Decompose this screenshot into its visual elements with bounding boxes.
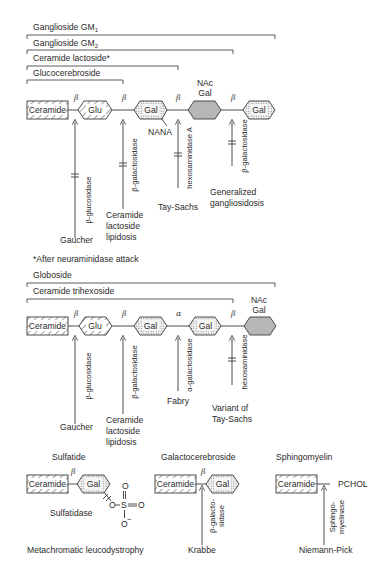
svg-text:Gal: Gal — [144, 321, 157, 331]
disease-label: Ceramide — [106, 415, 143, 425]
enzyme-arrow-alpha-galactosidase: α-galactosidase Fabry — [167, 338, 194, 406]
disease-label: Generalized — [210, 187, 257, 197]
svg-text:Gal: Gal — [87, 479, 100, 489]
linkage-beta: β — [73, 93, 79, 102]
sphingolipid-pathway-diagram: Ganglioside GM1 Ganglioside GM2 Ceramide… — [0, 0, 388, 575]
svg-text:α-galactosidase: α-galactosidase — [185, 338, 194, 391]
svg-text:O: O — [122, 481, 129, 491]
svg-text:Glu: Glu — [88, 321, 102, 331]
bracket-label: Ganglioside GM1 — [33, 22, 99, 33]
disease-label: Ceramide — [106, 210, 143, 220]
bracket-globoside: Globoside — [27, 270, 275, 287]
svg-text:β: β — [230, 309, 236, 318]
disease-label: lactoside — [106, 221, 140, 231]
svg-text:Gal: Gal — [252, 305, 265, 315]
bracket-label: Ceramide lactoside* — [33, 53, 111, 63]
panel-title: Sulfatide — [52, 452, 86, 462]
svg-text:myelinase: myelinase — [337, 500, 346, 534]
bracket-label: Ganglioside GM2 — [33, 38, 99, 49]
svg-text:Globoside: Globoside — [33, 270, 72, 280]
svg-text:sidase: sidase — [217, 505, 226, 527]
n-acetylgalactosamine-node: NAc Gal — [188, 78, 221, 119]
sphingomyelin-panel: Sphingomyelin Ceramide PCHOL Sphingo- my… — [276, 452, 368, 555]
svg-text:−: − — [127, 515, 132, 524]
svg-text:Gal: Gal — [252, 105, 265, 115]
svg-text:O: O — [109, 500, 116, 510]
svg-text:β: β — [73, 309, 79, 318]
disease-label: Variant of — [212, 403, 249, 413]
svg-text:Ceramide trihexoside: Ceramide trihexoside — [33, 286, 114, 296]
ceramide-node: Ceramide — [27, 317, 68, 335]
svg-text:Ceramide: Ceramide — [29, 479, 66, 489]
enzyme-arrow-beta-galactosidase: β-galactosidase Ceramide lactoside lipid… — [106, 122, 143, 242]
terminal-galactose-node: Gal — [243, 101, 275, 119]
galactose-node: Gal — [134, 317, 167, 335]
disease-label: gangliosidosis — [210, 198, 264, 208]
disease-label: Gaucher — [60, 235, 93, 245]
svg-text:β-glucosidase: β-glucosidase — [84, 176, 93, 223]
svg-text:hexosaminidase A: hexosaminidase A — [185, 126, 194, 189]
disease-label: Gaucher — [60, 422, 93, 432]
disease-label: Tay-Sachs — [212, 414, 252, 424]
svg-text:Sphingo-: Sphingo- — [328, 501, 337, 532]
svg-text:β-glucosidase: β-glucosidase — [84, 352, 93, 399]
middle-pathway: Globoside Ceramide trihexoside Ceramide … — [27, 270, 276, 447]
svg-text:Glu: Glu — [88, 105, 102, 115]
svg-text:Gal: Gal — [198, 88, 211, 98]
svg-text:hexosaminidase: hexosaminidase — [240, 335, 249, 390]
enzyme-arrow-beta-glucosidase: β-glucosidase Gaucher — [60, 338, 93, 432]
disease-label: Krabbe — [188, 545, 216, 555]
svg-text:Gal: Gal — [144, 105, 157, 115]
footnote: *After neuraminidase attack — [33, 254, 139, 264]
enzyme-label: Sulfatidase — [50, 508, 93, 518]
svg-text:Ceramide: Ceramide — [29, 105, 66, 115]
svg-text:β: β — [121, 309, 127, 318]
svg-text:α: α — [176, 309, 182, 318]
enzyme-arrow-beta-galactosidase-gm1: β-galactosidase Generalized gangliosidos… — [210, 119, 264, 208]
panel-title: Galactocerebroside — [161, 452, 236, 462]
bracket-ganglioside-gm2: Ganglioside GM2 — [27, 38, 233, 54]
svg-text:Gal: Gal — [199, 321, 212, 331]
galactose-node-2: Gal — [189, 317, 221, 335]
disease-label: Fabry — [167, 396, 190, 406]
svg-text:β-galactosidase: β-galactosidase — [130, 138, 139, 191]
linkage-beta: β — [175, 93, 181, 102]
svg-text:NAc: NAc — [251, 295, 268, 305]
sulfatide-panel: Sulfatide Ceramide Gal β O S O O O − Sul… — [27, 452, 145, 555]
disease-label: lipidosis — [106, 437, 137, 447]
galactocerebroside-panel: Galactocerebroside Ceramide Gal β β-gala… — [155, 452, 239, 555]
panel-title: Sphingomyelin — [276, 452, 333, 462]
glucose-node: Glu — [79, 317, 112, 335]
svg-text:Ceramide: Ceramide — [278, 479, 315, 489]
enzyme-arrow-hexosaminidase: hexosaminidase Variant of Tay-Sachs — [212, 335, 252, 424]
n-acetylgalactosamine-node: NAc Gal — [244, 295, 276, 335]
svg-text:β-galacto-: β-galacto- — [208, 499, 217, 533]
top-pathway: Ganglioside GM1 Ganglioside GM2 Ceramide… — [27, 22, 275, 264]
svg-text:β: β — [200, 467, 206, 476]
bracket-ganglioside-gm1: Ganglioside GM1 — [27, 22, 275, 39]
linkage-beta: β — [121, 93, 127, 102]
svg-text:β-galactosidase: β-galactosidase — [240, 119, 249, 172]
glucose-node: Glu — [78, 101, 112, 119]
linkage-beta: β — [230, 93, 236, 102]
svg-text:β-galactosidase: β-galactosidase — [130, 345, 139, 398]
phosphocholine-label: PCHOL — [338, 479, 368, 489]
disease-label: lipidosis — [106, 232, 137, 242]
disease-label: lactoside — [106, 426, 140, 436]
disease-label: Tay-Sachs — [158, 202, 198, 212]
svg-text:β: β — [70, 467, 76, 476]
svg-text:S: S — [121, 500, 127, 510]
galactose-node: Gal — [134, 101, 167, 119]
nana-branch-label: NANA — [148, 127, 172, 137]
bracket-glucocerebroside: Glucocerebroside — [27, 68, 123, 84]
ceramide-node: Ceramide — [27, 101, 68, 119]
enzyme-arrow-beta-galactosidase: β-galactosidase Ceramide lactoside lipid… — [106, 338, 143, 447]
disease-label: Niemann-Pick — [299, 545, 353, 555]
disease-label: Metachromatic leucodystrophy — [27, 545, 144, 555]
svg-text:Gal: Gal — [216, 479, 229, 489]
svg-text:NAc: NAc — [197, 78, 214, 88]
bracket-label: Glucocerebroside — [33, 68, 101, 78]
enzyme-arrow-beta-glucosidase: β-glucosidase Gaucher — [60, 122, 93, 245]
bracket-ceramide-trihexoside: Ceramide trihexoside — [27, 286, 233, 303]
svg-text:Ceramide: Ceramide — [29, 321, 66, 331]
